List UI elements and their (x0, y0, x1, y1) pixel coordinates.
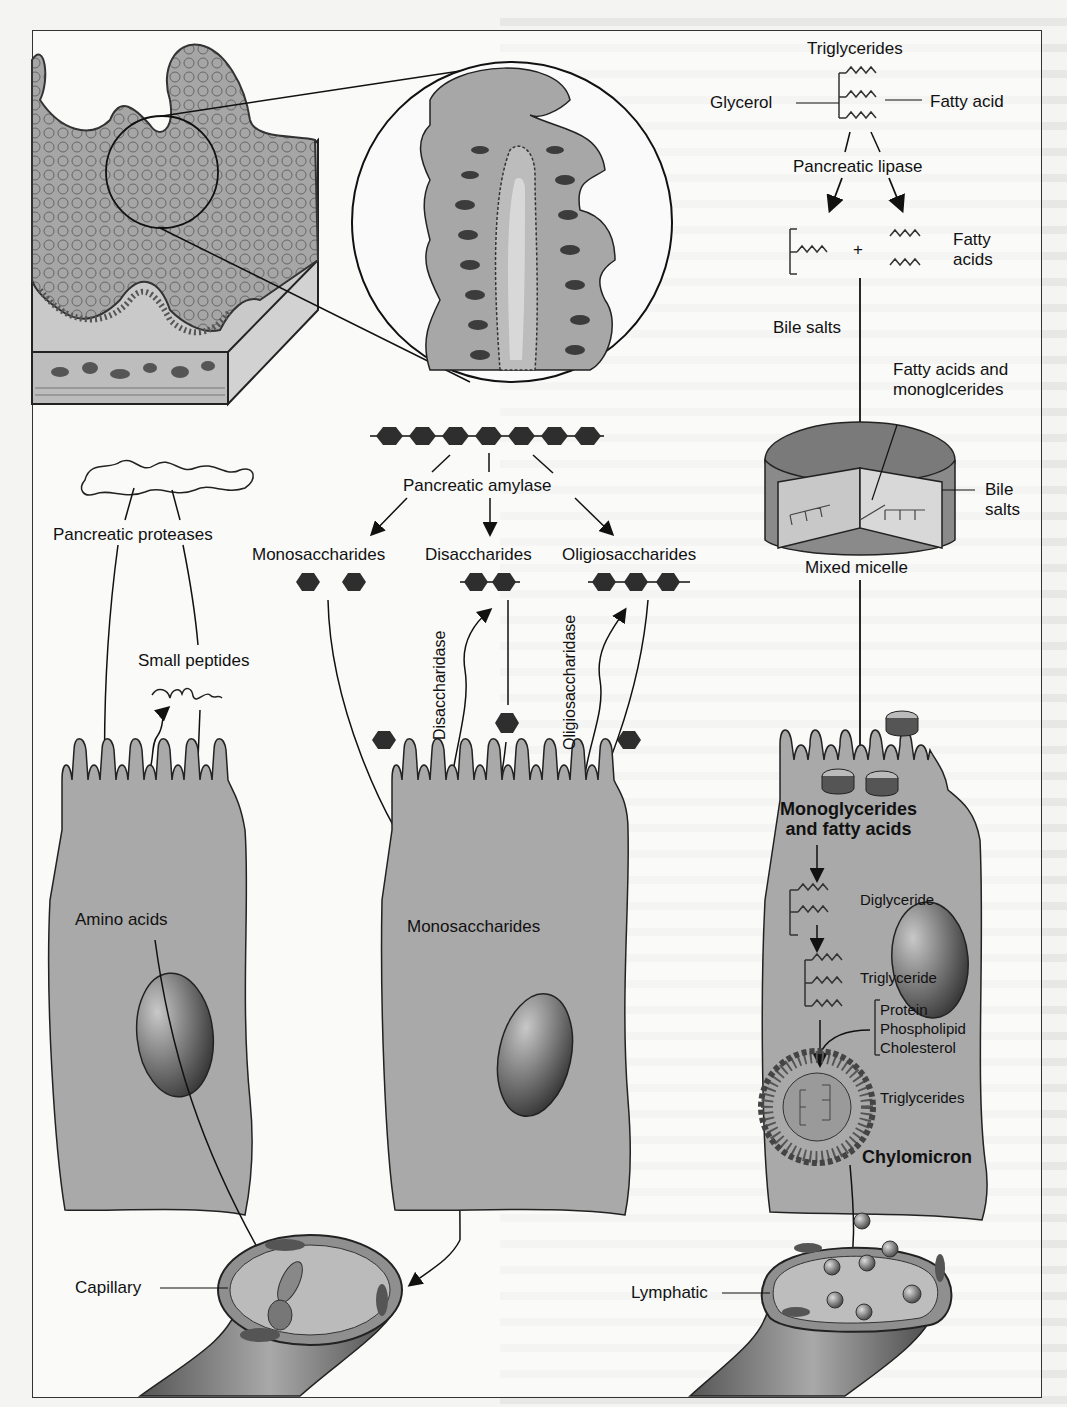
label-fatty-acids: Fatty acids (953, 230, 993, 270)
label-oligiosaccharides: Oligiosaccharides (562, 545, 696, 565)
label-triglycerides: Triglycerides (807, 39, 903, 59)
capillary-vessel (140, 1235, 402, 1396)
label-lymphatic: Lymphatic (631, 1283, 708, 1303)
label-monosaccharides: Monosaccharides (252, 545, 385, 565)
fat-pathway (690, 67, 987, 1396)
label-pancreatic-amylase: Pancreatic amylase (403, 476, 551, 496)
label-cholesterol: Cholesterol (880, 1038, 966, 1057)
label-chylomicron: Chylomicron (862, 1147, 972, 1167)
label-pancreatic-proteases: Pancreatic proteases (53, 525, 213, 545)
label-phospholipid: Phospholipid (880, 1019, 966, 1038)
label-glycerol: Glycerol (710, 93, 772, 113)
label-absorbed-monosaccharides: Monosaccharides (407, 917, 540, 937)
label-small-peptides: Small peptides (138, 651, 250, 671)
label-pancreatic-lipase: Pancreatic lipase (793, 157, 922, 177)
label-coat-components: Protein Phospholipid Cholesterol (880, 1000, 966, 1057)
enterocyte-cells (49, 739, 630, 1285)
label-plus: + (853, 240, 863, 260)
label-micelle-bile-salts: Bile salts (985, 480, 1020, 520)
label-fatty-acids-and-monoglycerides: Fatty acids and monoglcerides (893, 360, 1008, 400)
villus-magnified-illustration (352, 62, 672, 382)
label-disaccharidase: Disaccharidase (430, 631, 450, 740)
label-fatty-acid: Fatty acid (930, 92, 1004, 112)
label-amino-acids: Amino acids (75, 910, 168, 930)
label-protein: Protein (880, 1000, 966, 1019)
label-monoglycerides-and-fatty-acids: Monoglycerides and fatty acids (780, 799, 917, 839)
label-diglyceride: Diglyceride (860, 890, 934, 910)
label-bile-salts: Bile salts (773, 318, 841, 338)
label-oligiosaccharidase: Oligiosaccharidase (560, 615, 580, 750)
label-core-triglycerides: Triglycerides (880, 1088, 964, 1108)
diagram-artwork (0, 0, 1067, 1407)
label-triglyceride: Triglyceride (860, 968, 937, 988)
label-mixed-micelle: Mixed micelle (805, 558, 908, 578)
label-capillary: Capillary (75, 1278, 141, 1298)
label-disaccharides: Disaccharides (425, 545, 532, 565)
